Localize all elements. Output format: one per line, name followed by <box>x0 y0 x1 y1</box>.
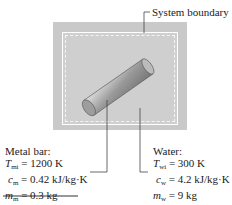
metal-temperature: Tmi = 1200 K <box>5 157 88 173</box>
water-temperature: Twi = 300 K <box>153 157 230 173</box>
water-specific-heat: cw = 4.2 kJ/kg·K <box>153 173 230 189</box>
water-mass: mw = 9 kg <box>153 189 230 205</box>
metal-specific-heat: cm = 0.42 kJ/kg·K <box>5 173 88 189</box>
metal-mass: mm = 0.3 kg <box>5 189 88 205</box>
water-properties: Water: Twi = 300 K cw = 4.2 kJ/kg·K mw =… <box>153 145 230 205</box>
metal-title: Metal bar: <box>5 145 88 157</box>
water-title: Water: <box>153 145 230 157</box>
system-boundary-label: System boundary <box>152 6 229 18</box>
metal-bar-properties: Metal bar: Tmi = 1200 K cm = 0.42 kJ/kg·… <box>5 145 88 205</box>
